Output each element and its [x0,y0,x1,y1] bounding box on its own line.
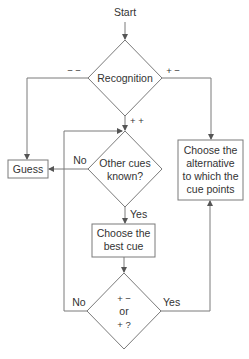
choose-alternative-line-4: cue points [187,183,235,195]
cue-test-line-1: + − [117,293,131,304]
other-cues-diamond [88,131,162,207]
choose-alternative-line-3: to which the [182,170,238,182]
other-cues-line-1: Other cues [99,157,150,169]
flowchart: Start Recognition − − + − + + Guess Choo… [0,0,249,359]
recognition-label: Recognition [97,72,153,84]
edge-recognition-to-alternative [162,78,211,139]
edge-cue-test-to-alternative [161,201,210,311]
edge-label-plus-minus: + − [166,65,180,76]
choose-alternative-line-2: alternative [186,157,235,169]
cue-test-line-3: + ? [117,319,130,330]
best-cue-line-2: best cue [104,240,144,252]
start-label: Start [114,6,136,18]
guess-label: Guess [13,163,43,175]
edge-label-other-cues-yes: Yes [130,208,147,220]
edge-label-minus-minus: − − [67,65,81,76]
edge-label-cue-test-no: No [72,296,86,308]
edge-recognition-to-guess [27,78,88,159]
other-cues-line-2: known? [107,170,143,182]
choose-alternative-line-1: Choose the [184,144,238,156]
edge-label-other-cues-no: No [73,154,87,166]
cue-test-line-2: or [119,305,129,317]
edge-label-plus-plus: + + [130,115,144,126]
best-cue-line-1: Choose the [97,227,151,239]
edge-label-cue-test-yes: Yes [163,296,180,308]
